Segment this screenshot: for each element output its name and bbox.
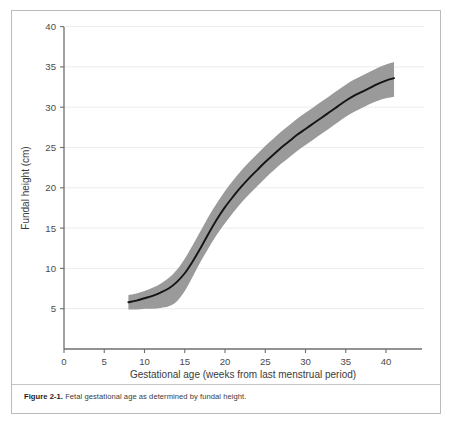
x-tick-label-30: 30 — [300, 356, 311, 367]
y-tick-label-15: 15 — [45, 223, 56, 234]
chart-plot-area: 510152025303540 0510152025303540 Fundal … — [12, 11, 440, 383]
x-tick-label-0: 0 — [61, 356, 66, 367]
y-axis-title: Fundal height (cm) — [20, 146, 31, 229]
fundal-height-chart: 510152025303540 0510152025303540 Fundal … — [12, 11, 440, 383]
y-tick-label-25: 25 — [45, 142, 56, 153]
y-tick-label-30: 30 — [45, 102, 56, 113]
normal-range-band-area — [128, 62, 394, 310]
x-tick-label-20: 20 — [220, 356, 231, 367]
figure-caption: Figure 2-1. Fetal gestational age as det… — [24, 392, 246, 401]
x-tick-label-40: 40 — [381, 356, 392, 367]
x-axis-title: Gestational age (weeks from last menstru… — [130, 369, 356, 380]
x-tick-label-10: 10 — [139, 356, 150, 367]
y-tick-label-40: 40 — [45, 21, 56, 32]
x-tick-label-15: 15 — [179, 356, 190, 367]
y-tick-label-20: 20 — [45, 182, 56, 193]
y-tick-label-10: 10 — [45, 263, 56, 274]
y-tick-label-5: 5 — [51, 303, 56, 314]
y-tick-label-35: 35 — [45, 61, 56, 72]
figure-caption-label: Figure 2-1. — [24, 392, 63, 401]
x-tick-label-25: 25 — [260, 356, 271, 367]
x-tick-label-35: 35 — [340, 356, 351, 367]
figure-caption-body: Fetal gestational age as determined by f… — [65, 392, 246, 401]
x-tick-label-5: 5 — [102, 356, 107, 367]
figure-container: 510152025303540 0510152025303540 Fundal … — [11, 10, 441, 414]
normal-range-band — [128, 62, 394, 310]
x-axis-ticks: 0510152025303540 — [61, 349, 391, 367]
caption-bar: Figure 2-1. Fetal gestational age as det… — [12, 384, 440, 413]
y-axis-ticks: 510152025303540 — [45, 21, 64, 314]
